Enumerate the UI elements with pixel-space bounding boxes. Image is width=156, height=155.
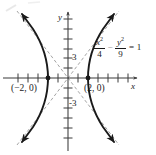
equation-minus-operator: − bbox=[105, 43, 115, 52]
x-axis-label: x bbox=[131, 82, 135, 91]
y-axis-label: y bbox=[58, 13, 62, 22]
scan-artifact bbox=[2, 0, 62, 14]
equation-right-hand-side: 1 bbox=[137, 43, 142, 52]
right-vertex-label: (2, 0) bbox=[84, 84, 105, 94]
term1-exponent: 2 bbox=[100, 36, 103, 42]
axes bbox=[3, 12, 137, 151]
term1-denominator: 4 bbox=[96, 49, 103, 59]
hyperbola-plot bbox=[0, 0, 156, 155]
term2-exponent: 2 bbox=[121, 36, 124, 42]
vertex-dot-left bbox=[46, 76, 51, 81]
term2-denominator: 9 bbox=[117, 49, 124, 59]
equation-term-y-squared-over-9: y2 9 bbox=[115, 36, 126, 59]
equals-sign: = bbox=[126, 43, 137, 52]
equation-term-x-squared-over-4: x2 4 bbox=[94, 36, 105, 59]
left-vertex-label: (−2, 0) bbox=[11, 84, 37, 94]
hyperbola-equation: x2 4 − y2 9 = 1 bbox=[94, 36, 141, 59]
vertex-dot-right bbox=[86, 76, 91, 81]
y-tick-label-negative-3: -3 bbox=[69, 99, 77, 108]
y-tick-label-3: 3 bbox=[72, 53, 77, 62]
left-branch-upper bbox=[22, 14, 48, 78]
hyperbola-figure: x y 3 -3 (−2, 0) (2, 0) x2 4 − y2 9 = 1 bbox=[0, 0, 156, 155]
